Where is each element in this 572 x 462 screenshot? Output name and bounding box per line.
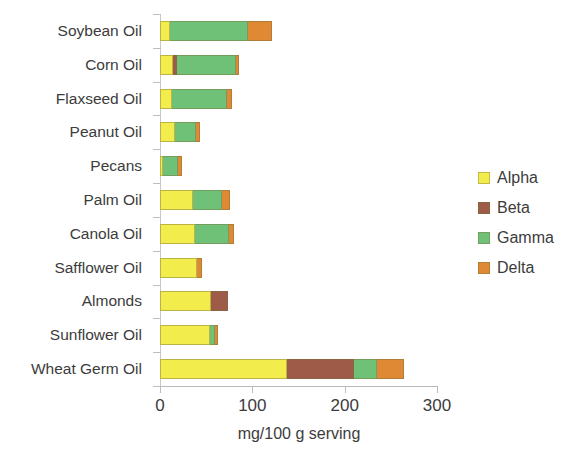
y-axis-tick <box>153 318 161 319</box>
y-axis-category-label: Pecans <box>0 158 142 174</box>
legend-swatch-icon <box>478 262 490 274</box>
y-axis-category-label: Flaxseed Oil <box>0 91 142 107</box>
bar-segment-gamma[interactable] <box>195 224 229 244</box>
x-axis-tick <box>160 386 161 393</box>
bar-segment-gamma[interactable] <box>175 122 196 142</box>
tocopherol-stacked-bar-chart: Soybean OilCorn OilFlaxseed OilPeanut Oi… <box>0 0 572 462</box>
y-axis-tick <box>153 251 161 252</box>
y-axis-category-label: Peanut Oil <box>0 124 142 140</box>
y-axis-category-label: Sunflower Oil <box>0 327 142 343</box>
bar-segment-gamma[interactable] <box>163 156 179 176</box>
bar-segment-alpha[interactable] <box>160 224 195 244</box>
x-axis-tick-label: 300 <box>407 396 467 416</box>
bar-segment-alpha[interactable] <box>160 89 172 109</box>
y-axis-category-label: Soybean Oil <box>0 23 142 39</box>
y-axis-tick <box>153 217 161 218</box>
y-axis-category-labels: Soybean OilCorn OilFlaxseed OilPeanut Oi… <box>0 14 150 386</box>
y-axis-category-label: Wheat Germ Oil <box>0 361 142 377</box>
y-axis-tick <box>153 149 161 150</box>
legend-item[interactable]: Delta <box>478 253 554 283</box>
bar-segment-gamma[interactable] <box>177 55 236 75</box>
legend-label: Gamma <box>497 229 554 247</box>
bar-segment-gamma[interactable] <box>172 89 227 109</box>
bar-segment-delta[interactable] <box>197 258 202 278</box>
y-axis-tick <box>153 183 161 184</box>
bar-segment-delta[interactable] <box>236 55 240 75</box>
bar-segment-delta[interactable] <box>227 89 232 109</box>
bar-segment-alpha[interactable] <box>160 325 210 345</box>
y-axis-tick <box>153 386 161 387</box>
y-axis-category-label: Corn Oil <box>0 57 142 73</box>
legend-swatch-icon <box>478 202 490 214</box>
bar-segment-alpha[interactable] <box>160 291 211 311</box>
y-axis-tick <box>153 82 161 83</box>
y-axis-category-label: Canola Oil <box>0 226 142 242</box>
bar-segment-delta[interactable] <box>377 359 404 379</box>
bar-segment-delta[interactable] <box>222 190 230 210</box>
y-axis-tick <box>153 14 161 15</box>
y-axis-tick <box>153 352 161 353</box>
y-axis-tick <box>153 48 161 49</box>
x-axis-title: mg/100 g serving <box>160 425 438 443</box>
bar-segment-delta[interactable] <box>215 325 218 345</box>
x-axis-tick-label: 200 <box>315 396 375 416</box>
y-axis-tick <box>153 115 161 116</box>
y-axis-tick <box>153 285 161 286</box>
chart-legend: AlphaBetaGammaDelta <box>478 163 554 283</box>
x-axis-line <box>160 386 438 387</box>
x-axis-tick-label: 0 <box>130 396 190 416</box>
bar-segment-beta[interactable] <box>211 291 229 311</box>
bar-segment-alpha[interactable] <box>160 21 170 41</box>
bar-segment-delta[interactable] <box>196 122 200 142</box>
bar-segment-delta[interactable] <box>248 21 272 41</box>
bar-segment-alpha[interactable] <box>160 258 197 278</box>
legend-label: Delta <box>497 259 534 277</box>
x-axis-tick-label: 100 <box>222 396 282 416</box>
legend-item[interactable]: Alpha <box>478 163 554 193</box>
x-axis-tick <box>345 386 346 393</box>
legend-item[interactable]: Gamma <box>478 223 554 253</box>
bar-segment-delta[interactable] <box>229 224 234 244</box>
bar-segment-alpha[interactable] <box>160 190 193 210</box>
bar-segment-gamma[interactable] <box>170 21 248 41</box>
bar-segment-alpha[interactable] <box>160 55 173 75</box>
bar-segment-beta[interactable] <box>287 359 353 379</box>
legend-item[interactable]: Beta <box>478 193 554 223</box>
y-axis-category-label: Safflower Oil <box>0 260 142 276</box>
bar-segment-gamma[interactable] <box>354 359 377 379</box>
y-axis-category-label: Almonds <box>0 293 142 309</box>
legend-swatch-icon <box>478 172 490 184</box>
x-axis-tick <box>437 386 438 393</box>
legend-label: Beta <box>497 199 530 217</box>
bar-segment-alpha[interactable] <box>160 359 287 379</box>
bar-segment-gamma[interactable] <box>193 190 222 210</box>
y-axis-category-label: Palm Oil <box>0 192 142 208</box>
plot-area <box>160 14 438 386</box>
bar-segment-alpha[interactable] <box>160 122 175 142</box>
legend-label: Alpha <box>497 169 538 187</box>
x-axis-tick <box>252 386 253 393</box>
bar-segment-delta[interactable] <box>178 156 182 176</box>
legend-swatch-icon <box>478 232 490 244</box>
